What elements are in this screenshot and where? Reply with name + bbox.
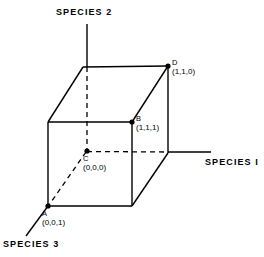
- axis-species-1: [87, 152, 211, 153]
- species-cube-figure: SPECIES 2 SPECIES I SPECIES 3 D (1,1,0) …: [0, 0, 264, 257]
- vertex-dot-d: [165, 63, 170, 68]
- cube-diagram-canvas: [0, 0, 264, 257]
- vertex-dot-c: [84, 148, 89, 153]
- cube-edge-receding-top-left: [48, 67, 83, 122]
- vertex-label-b-name: B: [136, 114, 159, 123]
- axis-label-species-3: SPECIES 3: [3, 240, 59, 249]
- vertex-label-b-coord: (1,1,1): [136, 123, 159, 132]
- axis-label-species-2: SPECIES 2: [56, 8, 112, 17]
- vertex-label-b: B (1,1,1): [136, 114, 159, 132]
- cube-edges: [48, 66, 168, 206]
- vertex-label-a: A (0,0,1): [42, 209, 65, 227]
- vertex-label-c: C (0,0,0): [83, 154, 106, 172]
- vertex-label-a-name: A: [42, 209, 65, 218]
- species-3-axis-hidden: [49, 152, 86, 205]
- vertex-label-c-coord: (0,0,0): [83, 163, 106, 172]
- vertex-label-a-coord: (0,0,1): [42, 218, 65, 227]
- axis-label-species-1: SPECIES I: [205, 158, 259, 167]
- vertex-dot-a: [45, 203, 50, 208]
- vertex-label-c-name: C: [83, 154, 106, 163]
- species-1-axis-hidden: [87, 152, 168, 153]
- cube-edge-receding-bottom-right: [132, 153, 168, 206]
- vertex-dot-b: [129, 119, 134, 124]
- vertex-dots: [45, 63, 170, 208]
- cube-edge-back-top: [83, 66, 168, 67]
- vertex-label-d-coord: (1,1,0): [172, 67, 195, 76]
- vertex-label-d: D (1,1,0): [172, 58, 195, 76]
- vertex-label-d-name: D: [172, 58, 195, 67]
